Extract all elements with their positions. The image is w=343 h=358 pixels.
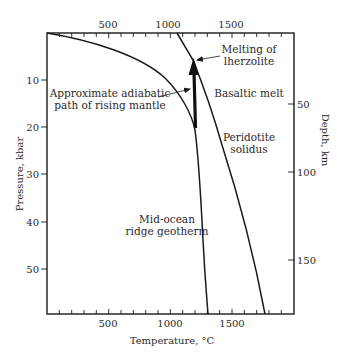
right-tick-100: 100 <box>297 167 316 178</box>
bottom-tick-1500: 1500 <box>219 318 244 329</box>
left-tick-40: 40 <box>26 217 39 228</box>
right-tick-50: 50 <box>297 99 310 110</box>
geotherm-label-line2: ridge geotherm <box>126 225 209 237</box>
top-tick-1500: 1500 <box>218 19 243 30</box>
top-tick-500: 500 <box>98 19 117 30</box>
top-axis-ticks <box>59 33 281 38</box>
solidus-label-line1: Peridotite <box>223 131 275 143</box>
left-axis-ticks <box>41 80 47 269</box>
melting-label-line2: lherzolite <box>224 55 274 67</box>
left-tick-50: 50 <box>26 264 39 275</box>
melting-pointer <box>197 56 220 60</box>
top-tick-1000: 1000 <box>155 19 180 30</box>
bottom-tick-1000: 1000 <box>157 318 182 329</box>
basaltic-melt-label: Basaltic melt <box>214 87 284 99</box>
geotherm-label-line1: Mid-ocean <box>139 213 195 225</box>
bottom-tick-500: 500 <box>98 318 117 329</box>
mid-ocean-ridge-geotherm-curve <box>47 33 208 314</box>
bottom-axis-ticks <box>59 309 281 314</box>
adiabat-label-line1: Approximate adiabatic <box>49 87 171 99</box>
solidus-label-line2: solidus <box>230 143 267 155</box>
peridotite-solidus-curve <box>177 33 265 314</box>
left-tick-20: 20 <box>26 122 39 133</box>
x-axis-title: Temperature, °C <box>130 335 215 346</box>
left-tick-10: 10 <box>26 75 39 86</box>
left-tick-30: 30 <box>26 169 39 180</box>
right-tick-150: 150 <box>297 255 316 266</box>
melting-label-line1: Melting of <box>222 43 278 55</box>
phase-diagram: 500 1000 1500 500 1000 1500 10 20 30 40 … <box>0 0 343 358</box>
y2-axis-title: Depth, km <box>320 114 331 167</box>
y-axis-title: Pressure, kbar <box>14 137 25 212</box>
adiabat-label-line2: path of rising mantle <box>54 99 166 111</box>
right-axis-ticks <box>288 104 294 260</box>
adiabatic-path-arrow <box>189 58 200 128</box>
